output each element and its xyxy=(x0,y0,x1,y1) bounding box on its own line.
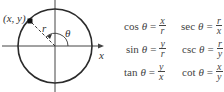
formula-cot: cot θ = xy xyxy=(182,62,223,81)
formula-tan: tan θ = yx xyxy=(124,62,165,81)
fraction: ry xyxy=(217,39,223,58)
formula-sin: sin θ = yr xyxy=(126,39,166,58)
theta: θ xyxy=(140,66,145,78)
x-axis-arrow-icon xyxy=(98,44,104,49)
fraction: xr xyxy=(159,16,165,35)
function-name: cos xyxy=(124,20,139,32)
equals: = xyxy=(149,66,155,78)
equals: = xyxy=(207,66,213,78)
fraction: yx xyxy=(158,62,164,81)
function-name: sin xyxy=(126,43,139,55)
angle-label: θ xyxy=(65,28,70,39)
fraction: rx xyxy=(216,16,222,35)
x-axis-label: x xyxy=(99,50,104,61)
theta: θ xyxy=(199,43,204,55)
point-label: (x, y) xyxy=(3,13,26,24)
theta: θ xyxy=(198,66,203,78)
function-name: cot xyxy=(182,66,195,78)
formula-csc: csc θ = ry xyxy=(182,39,223,58)
function-name: csc xyxy=(182,43,196,55)
function-name: tan xyxy=(124,66,137,78)
radius-label: r xyxy=(42,23,46,34)
equals: = xyxy=(207,43,213,55)
theta: θ xyxy=(142,43,147,55)
function-name: sec xyxy=(181,20,195,32)
formula-cos: cos θ = xr xyxy=(124,16,166,35)
point-marker xyxy=(28,19,33,24)
formula-sec: sec θ = rx xyxy=(181,16,222,35)
equals: = xyxy=(150,20,156,32)
theta: θ xyxy=(142,20,147,32)
fraction: yr xyxy=(159,39,165,58)
equals: = xyxy=(206,20,212,32)
theta: θ xyxy=(198,20,203,32)
equals: = xyxy=(150,43,156,55)
fraction: xy xyxy=(216,62,222,81)
